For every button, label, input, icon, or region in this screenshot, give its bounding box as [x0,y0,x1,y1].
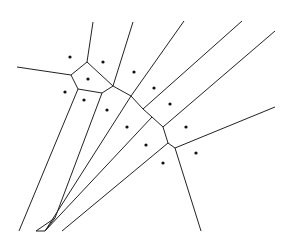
site-point [161,161,164,164]
site-point [105,108,108,111]
site-point [82,98,85,101]
voronoi-edge [19,89,78,231]
voronoi-edge [131,96,143,109]
voronoi-edge [113,86,131,96]
voronoi-edge [152,117,163,127]
voronoi-edge [87,62,113,86]
voronoi-edge [55,93,102,218]
voronoi-svg [0,0,294,240]
site-point [125,125,128,128]
site-point [86,77,89,80]
voronoi-edge [168,143,175,148]
site-point [63,90,66,93]
site-point [152,86,155,89]
voronoi-edge [102,86,113,93]
voronoi-edge [45,117,152,231]
voronoi-edge [71,75,78,89]
voronoi-edge [175,107,275,148]
voronoi-edge [143,109,152,117]
site-point [168,102,171,105]
site-point [184,125,187,128]
voronoi-edge [17,67,71,75]
site-point [68,55,71,58]
voronoi-edge [163,127,168,143]
site-point [144,143,147,146]
voronoi-edge [71,62,87,75]
voronoi-edge [131,21,184,96]
voronoi-edge [163,31,275,127]
voronoi-edge [113,22,133,86]
voronoi-diagram [0,0,294,240]
voronoi-edge [175,148,201,231]
voronoi-edge [45,96,131,231]
voronoi-sites [63,55,197,164]
voronoi-edge [87,22,93,62]
voronoi-edge [143,21,242,109]
site-point [132,70,135,73]
site-point [101,60,104,63]
site-point [194,151,197,154]
voronoi-edge [78,89,102,93]
voronoi-edges [17,21,275,231]
